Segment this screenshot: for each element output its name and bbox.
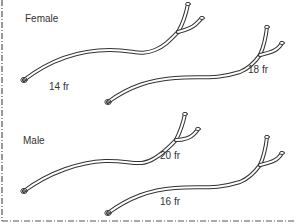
dash-dot-border — [2, 0, 296, 221]
section-label-female: Female — [25, 13, 58, 24]
size-label-16fr: 16 fr — [160, 196, 180, 207]
size-label-14fr: 14 fr — [49, 81, 69, 92]
size-label-18fr: 18 fr — [248, 64, 268, 75]
catheter-diagram: Female 14 fr 18 fr Male 20 fr 16 fr — [0, 0, 296, 224]
catheter-drawing — [0, 0, 296, 224]
catheter-male-16fr — [105, 135, 285, 215]
section-label-male: Male — [23, 135, 45, 146]
size-label-20fr: 20 fr — [160, 150, 180, 161]
